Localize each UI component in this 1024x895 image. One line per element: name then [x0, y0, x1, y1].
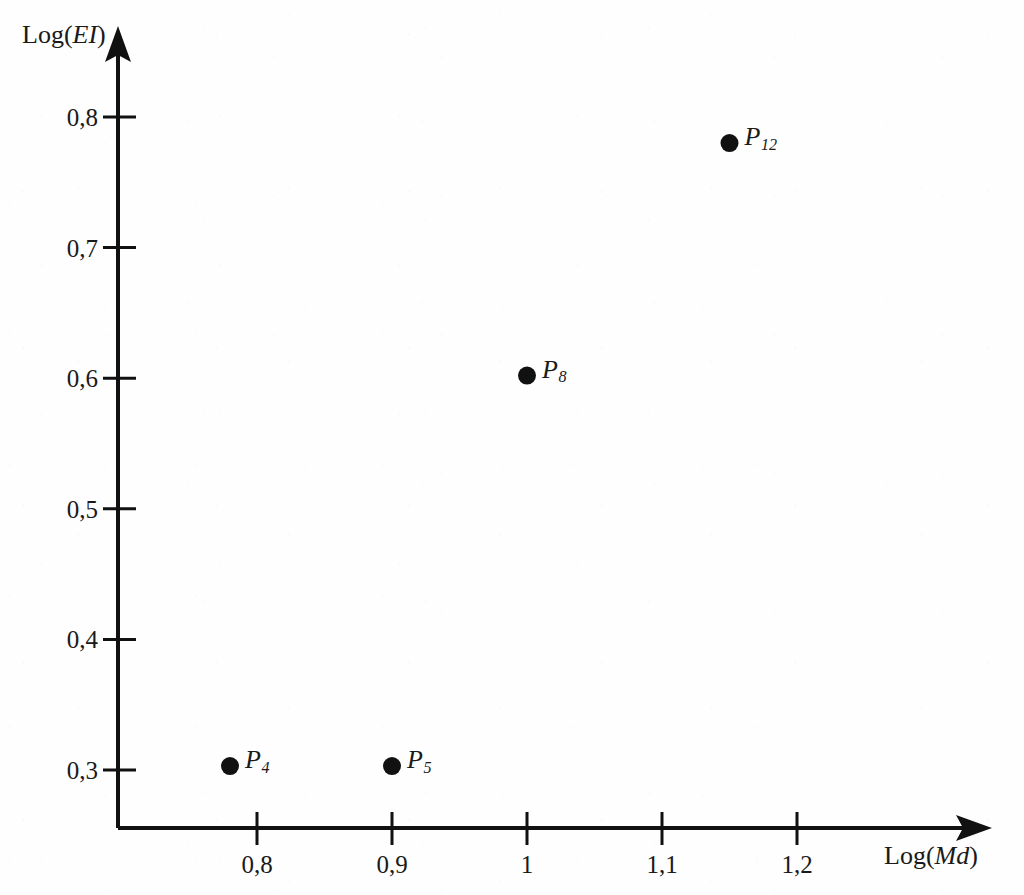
data-point-p4: [221, 757, 239, 775]
data-markers: [221, 134, 739, 775]
y-tick-label: 0,5: [67, 496, 98, 521]
data-point-p8: [518, 367, 536, 385]
data-point-p12: [721, 134, 739, 152]
y-axis-title: Log(EI): [22, 22, 106, 48]
y-tick-label: 0,7: [67, 235, 98, 260]
x-tick-label: 0,8: [241, 852, 272, 877]
x-axis: [118, 812, 992, 845]
data-point-label-p8: P8: [542, 357, 566, 383]
x-axis-title: Log(Md): [884, 843, 978, 869]
scatter-plot-figure: Log(EI) Log(Md) 0,80,911,11,20,30,40,50,…: [0, 0, 1024, 895]
y-axis: [103, 26, 136, 828]
y-tick-label: 0,3: [67, 758, 98, 783]
x-tick-label: 1,1: [646, 852, 677, 877]
y-tick-label: 0,4: [67, 627, 98, 652]
data-point-label-p5: P5: [407, 747, 431, 773]
y-tick-label: 0,8: [67, 105, 98, 130]
data-point-p5: [383, 757, 401, 775]
x-tick-label: 1: [521, 852, 534, 877]
x-tick-label: 0,9: [376, 852, 407, 877]
y-tick-label: 0,6: [67, 366, 98, 391]
data-point-label-p12: P12: [745, 124, 777, 150]
data-point-label-p4: P4: [245, 747, 269, 773]
x-tick-label: 1,2: [781, 852, 812, 877]
plot-canvas: [0, 0, 1024, 895]
